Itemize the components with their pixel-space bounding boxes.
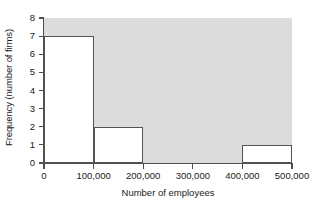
histogram-bar	[44, 36, 94, 163]
y-tick-label: 7	[5, 31, 35, 41]
x-tick-mark	[143, 164, 144, 169]
y-tick-label: 8	[5, 13, 35, 23]
y-tick-label: 1	[5, 140, 35, 150]
x-tick-mark	[93, 164, 94, 169]
x-tick-mark	[192, 164, 193, 169]
y-tick-label: 6	[5, 49, 35, 59]
x-tick-mark	[291, 164, 292, 169]
x-axis-line	[43, 163, 293, 164]
histogram-bar	[242, 145, 292, 163]
x-axis-title: Number of employees	[44, 187, 292, 198]
y-tick-label: 5	[5, 67, 35, 77]
y-tick-label: 0	[5, 158, 35, 168]
histogram-bar	[94, 127, 144, 163]
x-tick-label: 500,000	[262, 171, 322, 181]
x-tick-mark	[43, 164, 44, 169]
x-tick-mark	[242, 164, 243, 169]
y-tick-label: 3	[5, 104, 35, 114]
y-tick-label: 2	[5, 122, 35, 132]
y-tick-mark	[39, 17, 44, 18]
y-tick-label: 4	[5, 86, 35, 96]
histogram-chart: Frequency (number of firms) 012345678 01…	[0, 0, 332, 207]
